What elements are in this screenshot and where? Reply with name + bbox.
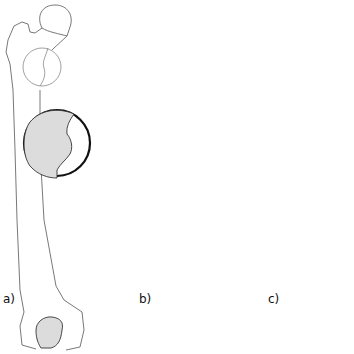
panel-a-label: a) [3, 292, 15, 306]
panel-b-label: b) [139, 292, 151, 306]
femur-diagram [0, 0, 354, 354]
panel-c-label: c) [268, 292, 279, 306]
panel-a-femur [6, 5, 90, 350]
